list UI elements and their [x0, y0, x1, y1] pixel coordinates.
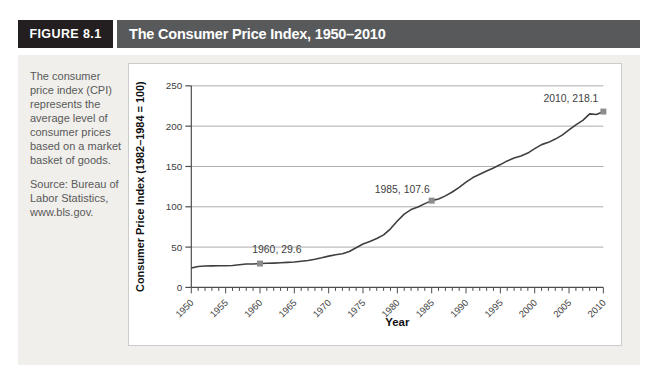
- data-point-marker: [429, 198, 435, 204]
- data-point-label: 1960, 29.6: [252, 244, 301, 255]
- x-tick-label: 1960: [242, 297, 265, 320]
- x-tick-label: 1995: [482, 297, 505, 320]
- x-tick-label: 2000: [516, 297, 539, 320]
- figure-title: The Consumer Price Index, 1950–2010: [129, 26, 386, 42]
- figure-panel: The consumer price index (CPI) represent…: [18, 55, 640, 365]
- x-tick-label: 1975: [345, 297, 368, 320]
- x-tick-label: 1970: [310, 297, 333, 320]
- data-point-marker: [600, 109, 606, 115]
- y-tick-label: 0: [177, 282, 183, 293]
- chart-area: 0501001502002501950195519601965197019751…: [128, 63, 622, 346]
- data-point-label: 1985, 107.6: [375, 184, 430, 195]
- sidebar-notes: The consumer price index (CPI) represent…: [30, 69, 127, 219]
- figure-header: FIGURE 8.1 The Consumer Price Index, 195…: [18, 20, 640, 48]
- x-tick-label: 2010: [585, 297, 608, 320]
- y-tick-label: 50: [171, 242, 183, 253]
- x-tick-label: 2005: [551, 297, 574, 320]
- y-tick-label: 150: [166, 161, 183, 172]
- x-tick-label: 1955: [207, 297, 230, 320]
- x-tick-label: 1965: [276, 297, 299, 320]
- data-point-marker: [257, 261, 263, 267]
- x-axis-title: Year: [385, 316, 410, 328]
- source-note: Source: Bureau of Labor Statistics, www.…: [30, 177, 127, 219]
- figure-number-label: FIGURE 8.1: [18, 20, 113, 48]
- y-tick-label: 100: [166, 201, 183, 212]
- data-point-label: 2010, 218.1: [543, 93, 598, 104]
- figure-title-bar: The Consumer Price Index, 1950–2010: [117, 20, 640, 48]
- figure-description: The consumer price index (CPI) represent…: [30, 69, 127, 167]
- y-axis-title: Consumer Price Index (1982–1984 = 100): [134, 81, 146, 292]
- y-tick-label: 250: [166, 80, 183, 91]
- cpi-line-chart: 0501001502002501950195519601965197019751…: [129, 64, 621, 345]
- x-tick-label: 1990: [448, 297, 471, 320]
- x-tick-label: 1950: [173, 297, 196, 320]
- y-tick-label: 200: [166, 121, 183, 132]
- x-tick-label: 1985: [413, 297, 436, 320]
